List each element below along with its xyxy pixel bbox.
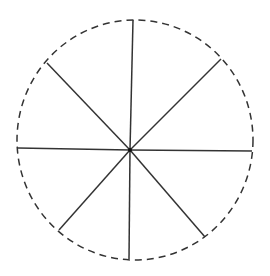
divided-circle-diagram — [0, 0, 270, 276]
spoke-line-7 — [18, 148, 130, 150]
spoke-line-8 — [47, 63, 130, 150]
spoke-line-3 — [130, 150, 252, 151]
spoke-line-4 — [130, 150, 205, 237]
spoke-line-6 — [59, 150, 130, 230]
dashed-circle — [17, 20, 253, 260]
spoke-line-1 — [130, 20, 133, 150]
spoke-line-2 — [130, 59, 221, 150]
center-point — [128, 148, 132, 152]
spokes-group — [18, 20, 252, 259]
spoke-line-5 — [129, 150, 130, 259]
